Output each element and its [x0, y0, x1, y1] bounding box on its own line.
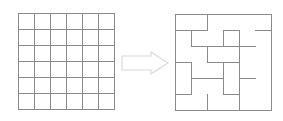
- transform-arrow-icon: [122, 52, 168, 74]
- generated-maze-panel: [176, 15, 272, 111]
- transform-arrow-group: [122, 52, 168, 74]
- figure-canvas: [0, 0, 283, 121]
- empty-grid-panel: [19, 14, 115, 110]
- figure-svg: [0, 0, 283, 121]
